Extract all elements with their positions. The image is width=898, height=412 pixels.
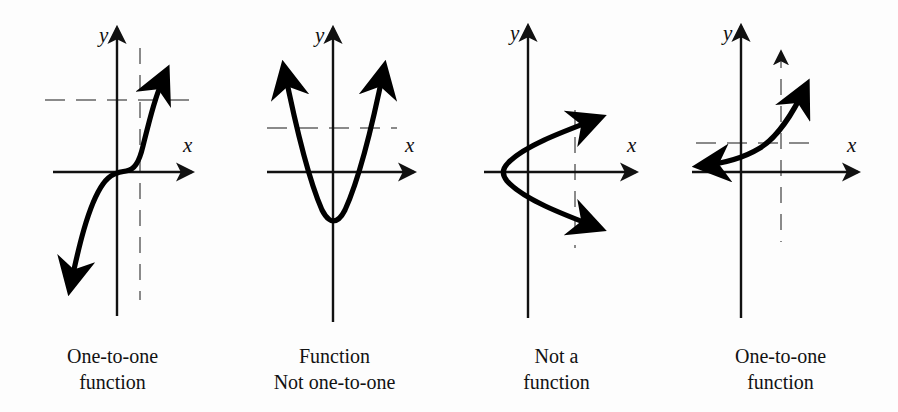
panel-2-caption: Function Not one-to-one	[222, 344, 447, 395]
exponential-curve	[700, 86, 806, 166]
y-axis-label: y	[97, 23, 109, 47]
x-axis-label: x	[846, 133, 857, 157]
panel-one-to-one-cubic: x y One-to-one function	[0, 0, 225, 412]
x-axis-label: x	[626, 133, 637, 157]
caption-line-2: function	[668, 370, 893, 396]
caption-line-1: One-to-one	[668, 344, 893, 370]
caption-line-2: function	[0, 370, 225, 396]
caption-line-2: Not one-to-one	[222, 370, 447, 396]
panel-2-graph: x y	[222, 0, 447, 340]
caption-line-1: Function	[222, 344, 447, 370]
panel-1-caption: One-to-one function	[0, 344, 225, 395]
x-axis-label: x	[182, 133, 193, 157]
caption-line-2: function	[444, 370, 669, 396]
y-axis-label: y	[508, 21, 520, 45]
line-test-figure: x y One-to-one function	[0, 0, 898, 412]
x-axis-label: x	[404, 133, 415, 157]
panel-3-graph: x y	[444, 0, 669, 340]
panel-4-caption: One-to-one function	[668, 344, 893, 395]
caption-line-1: One-to-one	[0, 344, 225, 370]
panel-not-a-function: x y Not a function	[444, 0, 669, 412]
panel-3-caption: Not a function	[444, 344, 669, 395]
caption-line-1: Not a	[444, 344, 669, 370]
y-axis-label: y	[313, 23, 325, 47]
panel-4-graph: x y	[668, 0, 893, 340]
y-axis-label: y	[721, 21, 733, 45]
panel-function-not-one-to-one: x y Function Not one-to-one	[222, 0, 447, 412]
panel-1-graph: x y	[0, 0, 225, 340]
panel-one-to-one-exponential: x y One-to-one function	[668, 0, 893, 412]
